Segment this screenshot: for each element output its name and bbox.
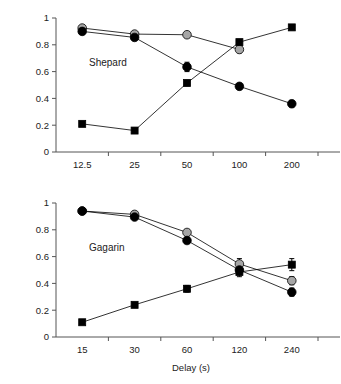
data-point-gray-circle	[183, 228, 192, 237]
y-tick-label: 0.2	[36, 120, 49, 131]
y-tick-label: 0.8	[36, 39, 49, 50]
data-point-black-square	[131, 127, 138, 134]
data-point-black-circle	[235, 82, 244, 91]
y-tick-label: 0.6	[36, 66, 49, 77]
plot-area-shepard: 00.20.40.60.8112.52550100200Shepard	[0, 0, 341, 192]
data-point-black-circle	[183, 236, 192, 245]
series-line	[82, 27, 292, 130]
y-tick-label: 0.2	[36, 305, 49, 316]
data-point-black-circle	[288, 99, 297, 108]
x-tick-label: 12.5	[73, 159, 92, 170]
series-line	[82, 28, 239, 49]
data-point-black-square	[79, 120, 86, 127]
x-tick-label: 240	[284, 344, 300, 355]
data-point-black-circle	[130, 33, 139, 42]
data-point-black-circle	[288, 288, 297, 297]
y-tick-label: 0	[44, 146, 49, 157]
data-point-black-circle	[183, 63, 192, 72]
y-tick-label: 0.8	[36, 224, 49, 235]
y-tick-label: 1	[44, 197, 49, 208]
data-point-black-circle	[130, 213, 139, 222]
data-point-black-square	[288, 261, 295, 268]
x-tick-label: 15	[77, 344, 88, 355]
data-point-black-circle	[78, 27, 87, 36]
x-tick-label: 60	[182, 344, 193, 355]
data-point-black-square	[131, 301, 138, 308]
data-point-black-square	[184, 79, 191, 86]
data-point-gray-circle	[288, 276, 297, 285]
x-tick-label: 30	[129, 344, 140, 355]
data-point-black-square	[288, 24, 295, 31]
x-tick-label: 200	[284, 159, 300, 170]
plot-area-gagarin: 00.20.40.60.81153060120240GagarinDelay (…	[0, 185, 341, 384]
figure: Proportion Correct or Declined 00.20.40.…	[0, 0, 341, 384]
data-point-gray-circle	[183, 30, 192, 39]
panel-gagarin: 00.20.40.60.81153060120240GagarinDelay (…	[0, 185, 341, 384]
y-tick-label: 0	[44, 331, 49, 342]
data-point-gray-circle	[235, 45, 244, 54]
x-axis-title: Delay (s)	[172, 362, 210, 373]
panel-shepard: 00.20.40.60.8112.52550100200Shepard	[0, 0, 341, 192]
y-tick-label: 0.4	[36, 93, 49, 104]
x-tick-label: 25	[129, 159, 140, 170]
x-tick-label: 100	[231, 159, 247, 170]
panel-title: Shepard	[89, 57, 127, 68]
panel-title: Gagarin	[89, 242, 125, 253]
data-point-black-square	[184, 285, 191, 292]
data-point-black-circle	[78, 207, 87, 216]
x-tick-label: 50	[182, 159, 193, 170]
y-tick-label: 0.4	[36, 278, 49, 289]
series-line	[82, 265, 292, 323]
y-tick-label: 1	[44, 12, 49, 23]
data-point-black-square	[79, 319, 86, 326]
data-point-black-square	[236, 269, 243, 276]
y-tick-label: 0.6	[36, 251, 49, 262]
x-tick-label: 120	[231, 344, 247, 355]
data-point-black-square	[236, 39, 243, 46]
